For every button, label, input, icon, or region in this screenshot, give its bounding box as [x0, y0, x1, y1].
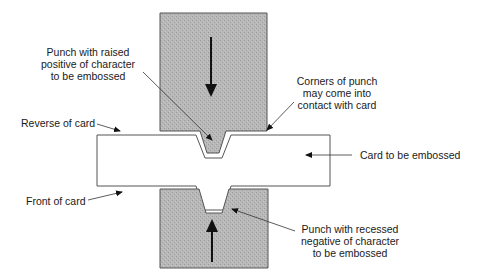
- label-corners-line1: Corners of punch: [297, 75, 378, 87]
- embossing-diagram: Punch with raised positive of character …: [0, 0, 480, 280]
- label-top-punch-line2: positive of character: [41, 58, 135, 70]
- label-top-punch-line3: to be embossed: [51, 70, 126, 82]
- label-top-punch: Punch with raised positive of character …: [41, 46, 135, 82]
- label-bottom-punch-line3: to be embossed: [313, 247, 388, 259]
- label-bottom-punch-line2: negative of character: [301, 235, 400, 247]
- label-reverse-of-card: Reverse of card: [21, 117, 95, 129]
- leader-corners: [267, 102, 294, 130]
- label-card-to-be-embossed: Card to be embossed: [360, 149, 461, 161]
- label-bottom-punch-line1: Punch with recessed: [302, 223, 399, 235]
- label-corners: Corners of punch may come into contact w…: [297, 75, 378, 111]
- label-corners-line2: may come into: [303, 87, 371, 99]
- label-top-punch-line1: Punch with raised: [47, 46, 130, 58]
- label-bottom-punch: Punch with recessed negative of characte…: [301, 223, 400, 259]
- top-punch: [160, 13, 267, 153]
- top-punch-body: [160, 13, 267, 153]
- label-front-of-card: Front of card: [26, 195, 86, 207]
- leader-front: [88, 192, 122, 200]
- label-corners-line3: contact with card: [298, 99, 377, 111]
- leader-reverse: [97, 124, 120, 131]
